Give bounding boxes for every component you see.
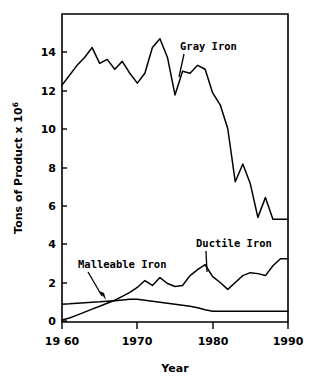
annotation-malleable-iron: Malleable Iron [78, 258, 167, 300]
series-line-malleable-iron [62, 299, 288, 311]
annotation-ductile-iron: Ductile Iron [196, 237, 272, 272]
y-tick-label: 12 [41, 85, 56, 98]
y-tick-label: 6 [48, 200, 56, 213]
x-axis-tick-labels: 19 60 1970 1980 1990 [45, 335, 304, 348]
y-tick-label: 0 [48, 315, 56, 328]
x-tick-label: 1980 [198, 335, 229, 348]
y-axis-title: Tons of Product x 106 [11, 102, 25, 234]
y-tick-label: 2 [48, 277, 56, 290]
y-axis-title-text: Tons of Product x 10 [12, 107, 25, 234]
series-label-malleable-iron: Malleable Iron [78, 258, 167, 270]
y-tick-label: 8 [48, 162, 56, 175]
y-tick-label: 10 [41, 123, 57, 136]
annotation-gray-iron: Gray Iron [179, 40, 237, 77]
y-tick-label: 4 [48, 238, 56, 251]
plot-frame [62, 14, 288, 322]
x-tick-label: 1970 [122, 335, 153, 348]
x-tick-label: 1990 [273, 335, 304, 348]
y-axis-title-exponent: 6 [11, 102, 20, 107]
x-axis-ticks [62, 322, 288, 329]
series-label-ductile-iron: Ductile Iron [196, 237, 272, 249]
series-label-gray-iron: Gray Iron [180, 40, 237, 52]
series-line-gray-iron [62, 39, 288, 220]
x-axis-title: Year [160, 362, 189, 375]
svg-text:Tons of Product x 106: Tons of Product x 106 [11, 102, 25, 234]
y-axis-tick-labels: 14 12 10 8 6 4 2 0 [41, 46, 57, 328]
x-tick-label: 19 60 [45, 335, 80, 348]
y-tick-label: 14 [41, 46, 57, 59]
line-chart: 14 12 10 8 6 4 2 0 19 60 1970 1980 1990 … [0, 0, 318, 381]
chart-figure: 14 12 10 8 6 4 2 0 19 60 1970 1980 1990 … [0, 0, 318, 381]
